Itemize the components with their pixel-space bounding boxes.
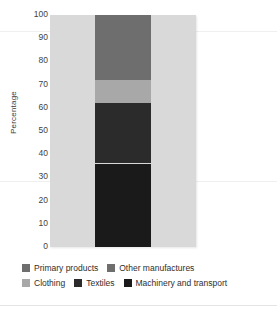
legend-row: ClothingTextilesMachinery and transport [22,275,272,290]
stacked-bar [95,15,151,247]
legend-swatch-icon [22,264,30,272]
legend-swatch-icon [22,279,30,287]
legend-item-machinery-and-transport[interactable]: Machinery and transport [124,278,228,288]
legend-label: Machinery and transport [136,278,228,288]
y-axis-tick-40: 40 [18,148,48,158]
legend-label: Clothing [34,278,65,288]
legend-label: Other manufactures [119,263,194,273]
legend-label: Primary products [34,263,98,273]
legend-swatch-icon [124,279,132,287]
y-axis-tick-10: 10 [18,218,48,228]
legend-item-clothing[interactable]: Clothing [22,278,65,288]
y-axis-tick-80: 80 [18,55,48,65]
bar-segment-clothing [95,80,151,103]
y-axis-tick-20: 20 [18,195,48,205]
legend-swatch-icon [74,279,82,287]
legend-item-other-manufactures[interactable]: Other manufactures [107,263,194,273]
y-axis-tick-50: 50 [18,125,48,135]
y-axis-tick-30: 30 [18,171,48,181]
y-axis-tick-60: 60 [18,102,48,112]
bar-segment-textiles [95,103,151,163]
y-axis-tick-100: 100 [18,9,48,19]
plot-area [50,15,196,247]
bar-segment-other-manufactures [95,15,151,80]
y-axis-title: Percentage [9,73,18,153]
page-rule-bottom [0,305,277,306]
y-axis-tick-0: 0 [18,241,48,251]
legend-swatch-icon [107,264,115,272]
y-axis-tick-70: 70 [18,79,48,89]
legend-label: Textiles [86,278,114,288]
y-axis-tick-labels: 1009080706050403020100 [18,9,48,253]
bar-segment-machinery-and-transport [95,164,151,248]
legend-item-textiles[interactable]: Textiles [74,278,114,288]
legend-row: Primary productsOther manufactures [22,260,272,275]
chart-legend: Primary productsOther manufacturesClothi… [22,260,272,290]
legend-item-primary-products[interactable]: Primary products [22,263,98,273]
y-axis-tick-90: 90 [18,32,48,42]
stacked-bar-chart: Percentage 1009080706050403020100 Primar… [0,0,277,313]
